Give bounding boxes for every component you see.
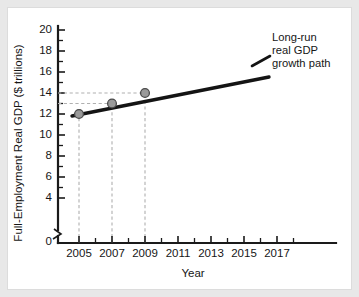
data-point-2005[interactable] [75, 110, 84, 119]
y-label-8: 8 [46, 149, 52, 161]
y-label-12: 12 [39, 107, 52, 119]
y-label-4: 4 [46, 191, 53, 203]
y-label-20: 20 [39, 23, 52, 35]
y-axis-tick-labels: 20 18 16 14 12 10 8 6 4 0 [39, 23, 52, 247]
x-label-2005: 2005 [66, 247, 92, 259]
vertical-guide-lines [79, 93, 145, 243]
y-label-14: 14 [39, 86, 52, 98]
x-axis-title-text: Year [181, 267, 204, 279]
y-label-10: 10 [39, 128, 52, 140]
long-run-growth-path-label: Long-run real GDP growth path [272, 31, 330, 69]
annotation-leader-line [252, 56, 270, 66]
x-axis-tick-labels: 2005 2007 2009 2011 2013 2015 2017 [66, 247, 290, 259]
annotation-line-1: Long-run [272, 31, 317, 43]
annotation-line-2: real GDP [272, 44, 318, 56]
y-axis-title-text: Full-Employment Real GDP ($ trillions) [12, 44, 24, 241]
data-point-2007[interactable] [108, 99, 117, 108]
y-label-0: 0 [46, 235, 52, 247]
x-label-2013: 2013 [198, 247, 224, 259]
horizontal-guide-lines [58, 93, 145, 104]
y-label-16: 16 [39, 65, 52, 77]
gdp-growth-path-chart: Full-Employment Real GDP ($ trillions) [8, 8, 351, 289]
data-point-2009[interactable] [141, 89, 150, 98]
annotation-line-3: growth path [272, 57, 330, 69]
x-label-2009: 2009 [132, 247, 158, 259]
chart-figure-panel: Full-Employment Real GDP ($ trillions) [8, 8, 351, 289]
long-run-growth-path-line [72, 77, 269, 116]
y-label-6: 6 [46, 170, 52, 182]
y-axis-title: Full-Employment Real GDP ($ trillions) [12, 44, 24, 241]
x-label-2011: 2011 [166, 247, 191, 259]
x-label-2017: 2017 [264, 247, 290, 259]
x-label-2015: 2015 [231, 247, 257, 259]
y-label-18: 18 [39, 44, 52, 56]
x-label-2007: 2007 [99, 247, 125, 259]
